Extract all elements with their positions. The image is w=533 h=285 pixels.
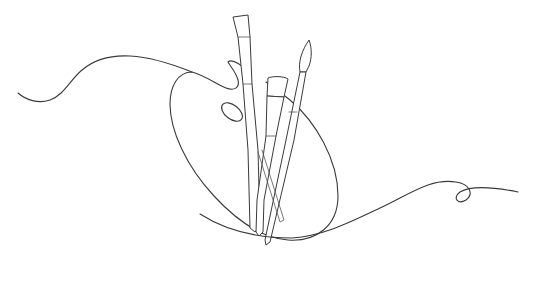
- flat-brush: [233, 15, 260, 232]
- flowing-line-right: [200, 181, 518, 238]
- illustration-canvas: Artist palette with paintbrushes: [0, 0, 533, 285]
- palette-brushes-drawing: [0, 0, 533, 285]
- thumb-hole: [218, 99, 246, 125]
- flowing-line-left: [18, 56, 192, 102]
